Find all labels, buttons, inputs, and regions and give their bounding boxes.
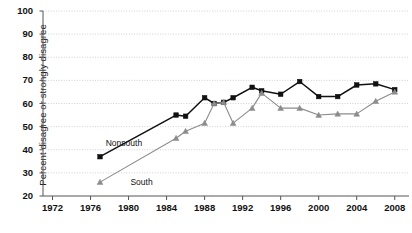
data-point-nonsouth: [354, 83, 359, 88]
series-annotation-south: South: [130, 177, 152, 187]
y-axis-tick-label: 60: [9, 98, 33, 109]
data-point-nonsouth: [373, 82, 378, 87]
y-axis-tick-label: 30: [9, 167, 33, 178]
data-point-nonsouth: [250, 85, 255, 90]
data-point-nonsouth: [335, 94, 340, 99]
data-point-nonsouth: [202, 95, 207, 100]
y-axis-tick-label: 20: [9, 190, 33, 201]
data-point-nonsouth: [183, 114, 188, 119]
x-axis-tick-label: 1972: [36, 202, 70, 213]
series-line-south: [100, 92, 395, 182]
data-point-south: [97, 179, 103, 184]
x-axis-tick-label: 1992: [226, 202, 260, 213]
y-axis-tick-label: 80: [9, 51, 33, 62]
x-axis-tick-label: 2008: [378, 202, 412, 213]
y-axis-tick-label: 50: [9, 121, 33, 132]
x-axis-tick-label: 1976: [74, 202, 108, 213]
y-axis-tick-label: 40: [9, 144, 33, 155]
data-point-south: [202, 120, 208, 125]
series-line-nonsouth: [100, 82, 395, 157]
data-point-nonsouth: [297, 79, 302, 84]
plot-svg: [0, 0, 412, 233]
series-annotation-nonsouth: Nonsouth: [106, 138, 142, 148]
chart-container: Percent disagree or strongly disagree 20…: [0, 0, 412, 233]
x-axis-tick-label: 1988: [188, 202, 222, 213]
data-point-south: [373, 98, 379, 103]
y-axis-tick-label: 90: [9, 28, 33, 39]
data-point-nonsouth: [231, 95, 236, 100]
x-axis-tick-label: 2004: [340, 202, 374, 213]
x-axis-tick-label: 2000: [302, 202, 336, 213]
data-point-nonsouth: [174, 113, 179, 118]
data-point-nonsouth: [316, 94, 321, 99]
x-axis-tick-label: 1980: [112, 202, 146, 213]
y-axis-tick-label: 100: [9, 5, 33, 16]
x-axis-tick-label: 1996: [264, 202, 298, 213]
x-axis-tick-label: 1984: [150, 202, 184, 213]
data-point-nonsouth: [98, 154, 103, 159]
data-point-south: [249, 105, 255, 110]
y-axis-tick-label: 70: [9, 74, 33, 85]
data-point-nonsouth: [278, 92, 283, 97]
